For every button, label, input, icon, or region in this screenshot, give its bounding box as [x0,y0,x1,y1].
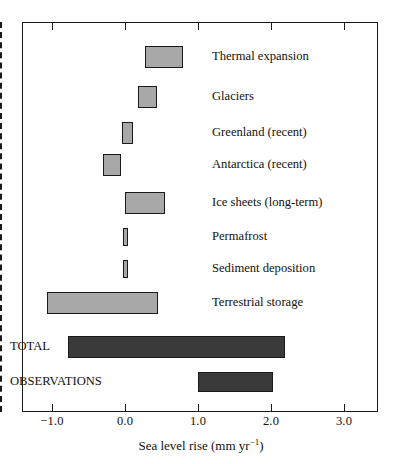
range-bar [123,228,128,246]
sea-level-rise-chart: −1.00.01.02.03.0 Thermal expansionGlacie… [0,0,402,464]
range-bar [103,154,121,176]
range-bar [138,86,157,108]
range-bar [122,122,133,144]
x-tick-top [52,22,53,30]
axis-title-text: Sea level rise (mm yr [138,438,249,453]
zero-reference-line [0,22,2,412]
x-tick-label: 1.0 [190,414,206,429]
bar-label: Thermal expansion [212,49,309,64]
bar-label: OBSERVATIONS [10,374,102,389]
x-tick-top [271,22,272,30]
x-tick-label: 3.0 [336,414,352,429]
axis-title-close: ) [259,438,263,453]
bar-label: Antarctica (recent) [212,157,307,172]
x-tick-label: −1.0 [40,414,63,429]
range-bar [123,260,128,278]
axis-title-exponent: −1 [250,437,260,447]
x-tick-bottom [125,404,126,412]
bar-label: Ice sheets (long-term) [212,195,323,210]
x-tick-label: 2.0 [263,414,279,429]
range-bar [145,46,183,68]
range-bar [198,372,273,392]
bar-label: Glaciers [212,89,254,104]
x-axis-title: Sea level rise (mm yr−1) [0,437,402,454]
bar-label: TOTAL [10,339,50,354]
x-tick-bottom [344,404,345,412]
bar-label: Greenland (recent) [212,125,307,140]
bar-label: Sediment deposition [212,261,315,276]
range-bar [47,292,158,314]
bar-label: Terrestrial storage [212,295,303,310]
x-tick-bottom [271,404,272,412]
range-bar [125,192,165,214]
x-tick-top [344,22,345,30]
x-tick-bottom [198,404,199,412]
range-bar [68,336,285,358]
x-tick-top [125,22,126,30]
x-tick-label: 0.0 [117,414,133,429]
x-tick-bottom [52,404,53,412]
bar-label: Permafrost [212,229,267,244]
x-tick-top [198,22,199,30]
